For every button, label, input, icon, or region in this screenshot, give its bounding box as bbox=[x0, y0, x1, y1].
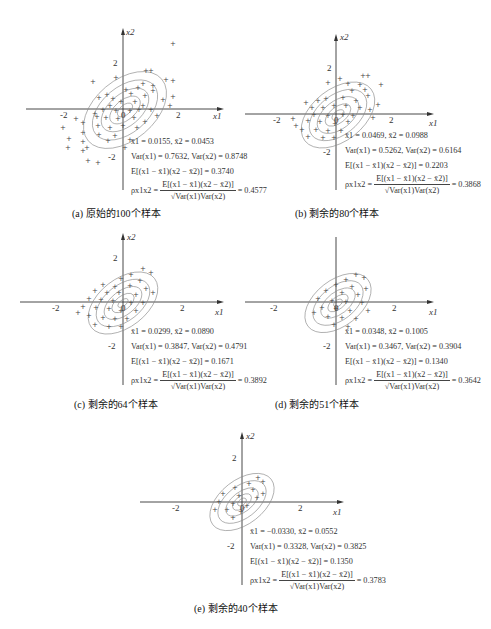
svg-text:+: + bbox=[311, 309, 317, 317]
var-text: Var(x1) = 0.3467, Var(x2) = 0.3904 bbox=[345, 339, 481, 354]
svg-text:+: + bbox=[85, 157, 91, 165]
svg-text:+: + bbox=[148, 67, 154, 75]
svg-text:+: + bbox=[337, 75, 343, 83]
svg-text:+: + bbox=[148, 269, 154, 277]
svg-text:+: + bbox=[86, 312, 92, 320]
rho-value: = 0.3868 bbox=[452, 177, 481, 192]
svg-text:+: + bbox=[353, 315, 359, 323]
svg-text:+: + bbox=[118, 98, 124, 106]
svg-text:+: + bbox=[167, 102, 173, 110]
svg-text:+: + bbox=[80, 129, 86, 137]
svg-text:+: + bbox=[124, 315, 130, 323]
cov-text: E[(x1 − x̄1)(x2 − x̄2)] = 0.1350 bbox=[250, 554, 386, 569]
ytick-2: 2 bbox=[327, 63, 332, 73]
caption-b: (b) 剩余的80个样本 bbox=[295, 205, 379, 220]
rho-symbol: ρx1x2 = bbox=[250, 573, 277, 588]
ytick-2: 2 bbox=[113, 253, 118, 263]
rho-numerator: E[(x1 − x̄1)(x2 − x̄2)] bbox=[279, 569, 355, 581]
svg-text:+: + bbox=[320, 104, 326, 112]
svg-text:+: + bbox=[142, 118, 148, 126]
rho-symbol: ρx1x2 = bbox=[131, 373, 158, 388]
svg-text:+: + bbox=[160, 96, 166, 104]
svg-text:+: + bbox=[150, 87, 156, 95]
svg-text:+: + bbox=[363, 285, 369, 293]
svg-text:+: + bbox=[133, 307, 139, 315]
svg-text:+: + bbox=[170, 93, 176, 101]
rho-denominator: √Var(x1)Var(x2) bbox=[160, 191, 236, 202]
ytick-neg2: -2 bbox=[323, 341, 331, 351]
svg-text:+: + bbox=[93, 304, 99, 312]
svg-text:+: + bbox=[133, 291, 139, 299]
var-text: Var(x1) = 0.5262, Var(x2) = 0.6164 bbox=[345, 143, 481, 158]
ytick-neg2: -2 bbox=[323, 147, 331, 157]
svg-text:+: + bbox=[230, 514, 236, 522]
svg-text:+: + bbox=[355, 291, 361, 299]
svg-text:+: + bbox=[250, 486, 256, 494]
svg-text:+: + bbox=[73, 115, 79, 123]
x-axis-label: x1 bbox=[332, 507, 342, 517]
svg-text:+: + bbox=[140, 80, 146, 88]
svg-text:+: + bbox=[315, 295, 321, 303]
svg-text:+: + bbox=[66, 135, 72, 143]
svg-text:+: + bbox=[163, 76, 169, 84]
rho-numerator: E[(x1 − x̄1)(x2 − x̄2)] bbox=[374, 369, 450, 381]
stats-block-e: x̄1 = −0.0330, x̄2 = 0.0552 Var(x1) = 0.… bbox=[250, 524, 386, 592]
panel-a: ++++ ++++ ++++ ++++ ++++ ++++ ++++ ++++ … bbox=[0, 0, 245, 225]
svg-text:+: + bbox=[305, 117, 311, 125]
x-axis-label: x1 bbox=[428, 307, 438, 317]
svg-text:+: + bbox=[118, 275, 124, 283]
svg-text:+: + bbox=[212, 506, 218, 514]
svg-text:+: + bbox=[120, 122, 126, 130]
svg-text:+: + bbox=[359, 299, 365, 307]
svg-text:+: + bbox=[100, 106, 106, 114]
xtick-neg2: -2 bbox=[52, 303, 60, 313]
svg-text:+: + bbox=[96, 131, 102, 139]
svg-text:+: + bbox=[343, 102, 349, 110]
svg-text:+: + bbox=[95, 159, 101, 167]
caption-c: (c) 剩余的64个样本 bbox=[74, 396, 158, 411]
svg-text:+: + bbox=[140, 299, 146, 307]
svg-text:+: + bbox=[353, 271, 359, 279]
rho-numerator: E[(x1 − x̄1)(x2 − x̄2)] bbox=[160, 369, 236, 381]
svg-text:+: + bbox=[134, 124, 140, 132]
svg-text:+: + bbox=[135, 84, 141, 92]
rho-symbol: ρx1x2 = bbox=[131, 183, 158, 198]
caption-e: (e) 剩余的40个样本 bbox=[194, 600, 278, 615]
rho-denominator: √Var(x1)Var(x2) bbox=[374, 185, 450, 196]
svg-text:+: + bbox=[378, 81, 384, 89]
xtick-0: 0 bbox=[121, 303, 126, 313]
svg-text:+: + bbox=[339, 314, 345, 322]
svg-text:+: + bbox=[325, 313, 331, 321]
svg-text:+: + bbox=[357, 104, 363, 112]
cov-text: E[(x1 − x̄1)(x2 − x̄2)] = 0.1340 bbox=[345, 354, 481, 369]
ytick-neg2: -2 bbox=[108, 152, 116, 162]
svg-text:+: + bbox=[331, 102, 337, 110]
svg-text:+: + bbox=[84, 144, 90, 152]
svg-text:+: + bbox=[103, 114, 109, 122]
svg-text:+: + bbox=[118, 323, 124, 331]
svg-text:+: + bbox=[136, 106, 142, 114]
svg-text:+: + bbox=[94, 113, 100, 121]
rho-symbol: ρx1x2 = bbox=[345, 373, 372, 388]
x-axis-label: x1 bbox=[212, 111, 222, 121]
xtick-0: 0 bbox=[240, 503, 245, 513]
svg-text:+: + bbox=[343, 298, 349, 306]
rho-value: = 0.3642 bbox=[452, 373, 481, 388]
svg-text:+: + bbox=[96, 94, 102, 102]
var-text: Var(x1) = 0.3328, Var(x2) = 0.3825 bbox=[250, 539, 386, 554]
svg-text:+: + bbox=[350, 112, 356, 120]
svg-text:+: + bbox=[331, 134, 337, 142]
rho-denominator: √Var(x1)Var(x2) bbox=[279, 581, 355, 592]
rho-value: = 0.3783 bbox=[357, 573, 386, 588]
svg-text:+: + bbox=[128, 90, 134, 98]
y-axis-label: x2 bbox=[126, 232, 136, 242]
svg-text:+: + bbox=[313, 126, 319, 134]
svg-text:+: + bbox=[370, 114, 376, 122]
svg-text:+: + bbox=[113, 74, 119, 82]
svg-text:+: + bbox=[260, 490, 266, 498]
rho-symbol: ρx1x2 = bbox=[345, 177, 372, 192]
rho-denominator: √Var(x1)Var(x2) bbox=[374, 381, 450, 392]
svg-text:+: + bbox=[104, 289, 110, 297]
svg-text:+: + bbox=[236, 492, 242, 500]
svg-text:+: + bbox=[347, 307, 353, 315]
